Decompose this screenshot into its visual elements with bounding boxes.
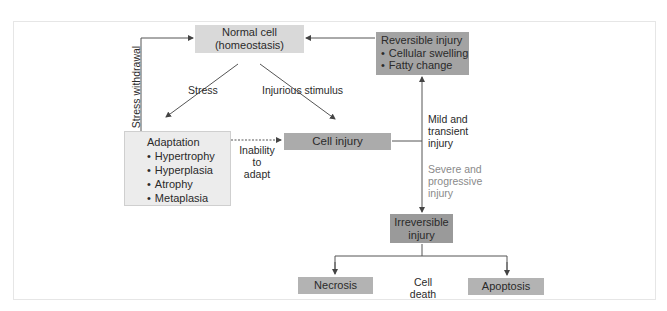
label-stress-withdrawal: Stress withdrawal bbox=[130, 42, 142, 132]
mild-line3: injury bbox=[428, 137, 468, 149]
label-injurious-stimulus: Injurious stimulus bbox=[262, 84, 343, 96]
mild-line2: transient bbox=[428, 125, 468, 137]
cell-death-line2: death bbox=[408, 288, 438, 300]
label-stress: Stress bbox=[188, 84, 218, 96]
irreversible-line2: injury bbox=[390, 229, 453, 242]
inability-line1: Inability to bbox=[234, 144, 280, 168]
mild-line1: Mild and bbox=[428, 113, 468, 125]
label-severe-progressive: Severe and progressive injury bbox=[428, 163, 482, 199]
label-inability-to-adapt: Inability to adapt bbox=[234, 144, 280, 180]
adaptation-item: Atrophy bbox=[147, 177, 230, 191]
severe-line3: injury bbox=[428, 187, 482, 199]
normal-cell-line2: (homeostasis) bbox=[195, 39, 304, 52]
node-apoptosis: Apoptosis bbox=[468, 278, 544, 295]
adaptation-title: Adaptation bbox=[147, 135, 230, 149]
adaptation-item: Hypertrophy bbox=[147, 149, 230, 163]
label-cell-death: Cell death bbox=[408, 276, 438, 300]
node-necrosis: Necrosis bbox=[298, 277, 373, 294]
connector-lines bbox=[0, 0, 667, 311]
adaptation-item: Hyperplasia bbox=[147, 163, 230, 177]
node-reversible-injury: Reversible injury Cellular swelling Fatt… bbox=[376, 32, 469, 75]
reversible-item: Cellular swelling bbox=[381, 47, 469, 60]
label-mild-transient: Mild and transient injury bbox=[428, 113, 468, 149]
node-normal-cell: Normal cell (homeostasis) bbox=[195, 25, 304, 53]
node-irreversible-injury: Irreversible injury bbox=[390, 214, 453, 243]
node-adaptation: Adaptation Hypertrophy Hyperplasia Atrop… bbox=[124, 131, 231, 206]
reversible-item: Fatty change bbox=[381, 59, 469, 72]
severe-line1: Severe and bbox=[428, 163, 482, 175]
node-cell-injury: Cell injury bbox=[284, 133, 391, 150]
irreversible-line1: Irreversible bbox=[390, 216, 453, 229]
reversible-title: Reversible injury bbox=[381, 34, 469, 47]
normal-cell-line1: Normal cell bbox=[195, 26, 304, 39]
inability-line2: adapt bbox=[234, 168, 280, 180]
adaptation-item: Metaplasia bbox=[147, 191, 230, 205]
severe-line2: progressive bbox=[428, 175, 482, 187]
cell-death-line1: Cell bbox=[408, 276, 438, 288]
